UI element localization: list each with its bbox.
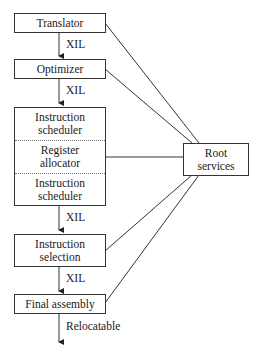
edge-label-relocatable: Relocatable — [66, 320, 120, 333]
seg3-line2: scheduler — [38, 190, 82, 203]
optimizer-label: Optimizer — [37, 63, 84, 76]
selection-line2: selection — [40, 251, 81, 264]
root-services-box: Root services — [183, 143, 249, 176]
instruction-scheduler-segment-1: Instruction scheduler — [15, 108, 105, 141]
translator-label: Translator — [37, 17, 84, 30]
selection-line1: Instruction — [35, 238, 85, 251]
seg2-line2: allocator — [40, 157, 80, 170]
edge-label-xil-2: XIL — [66, 84, 85, 97]
seg1-line2: scheduler — [38, 124, 82, 137]
edge-label-xil-4: XIL — [66, 272, 85, 285]
seg2-line1: Register — [41, 144, 79, 157]
root-line1: Root — [205, 147, 227, 160]
final-assembly-box: Final assembly — [14, 294, 106, 314]
root-line2: services — [197, 160, 234, 173]
edge-label-xil-1: XIL — [66, 38, 85, 51]
seg3-line1: Instruction — [35, 177, 85, 190]
translator-box: Translator — [14, 13, 106, 33]
edge-label-xil-3: XIL — [66, 211, 85, 224]
optimizer-box: Optimizer — [14, 59, 106, 79]
backend-stack-box: Instruction scheduler Register allocator… — [14, 107, 106, 206]
instruction-selection-box: Instruction selection — [14, 234, 106, 267]
final-assembly-label: Final assembly — [25, 298, 94, 311]
seg1-line1: Instruction — [35, 111, 85, 124]
instruction-scheduler-segment-2: Instruction scheduler — [15, 174, 105, 205]
register-allocator-segment: Register allocator — [15, 141, 105, 174]
